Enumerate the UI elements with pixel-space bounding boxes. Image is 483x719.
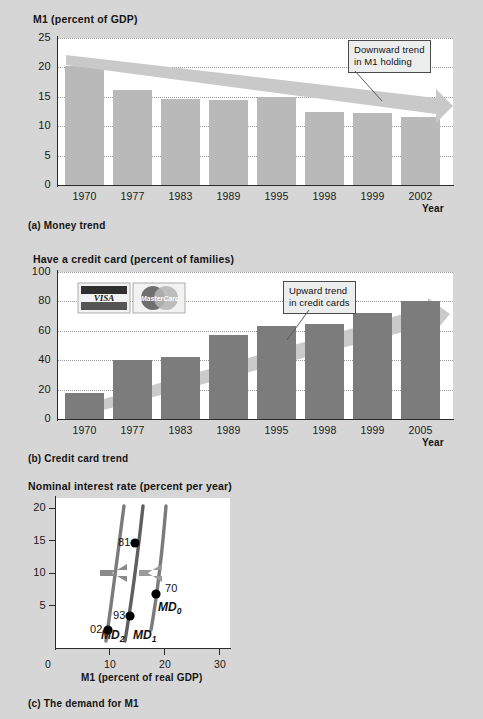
panel-a-ytick-25: 25 [20,31,51,43]
curve-label-md0-sub: 0 [177,606,182,616]
panel-b-xtick-1995: 1995 [252,424,301,436]
panel-b-caption: (b) Credit card trend [28,453,128,464]
bar-1989 [209,335,248,419]
panel-c-ytick-15: 15 [14,534,46,546]
panel-c-x-axis-name: M1 (percent of real GDP) [81,672,203,683]
curve-label-md0: MD0 [158,600,181,616]
panel-a-xtick-1970: 1970 [60,190,109,202]
panel-a-x-axis-name: Year [422,203,444,214]
point-70 [151,589,160,598]
panel-credit-card-trend: Have a credit card (percent of families) [0,240,483,470]
curve-label-md1: MD1 [133,628,156,644]
panel-b-xtick-1989: 1989 [204,424,253,436]
panel-c-origin-label: 0 [41,658,55,670]
panel-a-title: M1 (percent of GDP) [33,13,138,25]
panel-a-xtick-1999: 1999 [348,190,397,202]
panel-b-callout-leader [275,308,325,344]
panel-a-ytick-5: 5 [20,149,51,161]
panel-c-xtick-mark-30 [219,648,220,655]
panel-a-xtick-1995: 1995 [252,190,301,202]
panel-c-ytick-mark-20 [49,508,56,509]
panel-b-ytick-0: 0 [14,412,51,424]
visa-logo: VISA [78,283,130,313]
panel-demand-for-m1: Nominal interest rate (percent per year)… [0,470,483,719]
panel-a-xtick-1998: 1998 [300,190,349,202]
panel-b-y-axis [57,270,58,421]
point-label-81: 81 [118,536,131,548]
panel-a-xtick-1989: 1989 [204,190,253,202]
panel-c-ytick-20: 20 [14,501,46,513]
panel-a-callout-line1: Downward trend [354,44,425,55]
panel-b-xtick-1977: 1977 [108,424,157,436]
point-label-93: 93 [113,609,126,621]
panel-a-ytick-0: 0 [20,178,51,190]
panel-b-ytick-100: 100 [14,265,51,277]
panel-a-ytick-15: 15 [20,90,51,102]
panel-c-ytick-mark-15 [49,540,56,541]
panel-c-xtick-20: 20 [151,658,179,670]
panel-a-callout-leader [330,66,390,106]
panel-c-title: Nominal interest rate (percent per year) [28,480,232,492]
panel-b-ytick-20: 20 [14,383,51,395]
point-93 [125,611,134,620]
panel-c-caption: (c) The demand for M1 [28,698,139,709]
svg-text:MasterCard: MasterCard [141,295,180,302]
panel-b-xtick-1999: 1999 [348,424,397,436]
panel-b-callout-line2: in credit cards [289,297,350,308]
panel-b-x-axis-name: Year [422,437,444,448]
panel-b-xtick-2005: 2005 [396,424,445,436]
curve-label-md1-sub: 1 [152,634,157,644]
curve-label-md0-text: MD [158,600,177,614]
point-81 [130,538,139,547]
point-label-70: 70 [165,582,178,594]
bar-2005 [401,301,440,419]
panel-b-xtick-1970: 1970 [60,424,109,436]
panel-a-xtick-1977: 1977 [108,190,157,202]
panel-c-ytick-mark-5 [49,605,56,606]
panel-c-ytick-mark-10 [49,573,56,574]
panel-a-xtick-2002: 2002 [396,190,445,202]
panel-a-ytick-20: 20 [20,60,51,72]
mastercard-logo: MasterCard [133,283,185,313]
panel-c-xtick-mark-10 [109,648,110,655]
curve-label-md2-sub: 2 [120,634,125,644]
curve-label-md1-text: MD [133,628,152,642]
bar-1977 [113,360,152,419]
panel-c-ytick-5: 5 [14,599,46,611]
panel-c-xtick-10: 10 [96,658,124,670]
panel-a-xtick-1983: 1983 [156,190,205,202]
bar-1983 [161,357,200,419]
panel-c-x-axis [55,648,231,649]
figure-container: M1 (percent of GDP) 25 20 15 10 5 0 [0,0,483,719]
panel-a-x-axis [57,185,454,186]
panel-b-xtick-1998: 1998 [300,424,349,436]
bar-1970 [65,393,104,420]
bar-1999 [353,313,392,419]
panel-a-caption: (a) Money trend [28,220,105,231]
panel-b-ytick-80: 80 [14,294,51,306]
svg-text:VISA: VISA [94,293,115,303]
panel-a-ytick-10: 10 [20,119,51,131]
panel-a-y-axis [57,36,58,187]
panel-b-x-axis [57,419,454,420]
curve-label-md2-text: MD [101,628,120,642]
panel-money-trend: M1 (percent of GDP) 25 20 15 10 5 0 [0,0,483,240]
panel-b-title: Have a credit card (percent of families) [33,253,234,265]
panel-b-ytick-40: 40 [14,353,51,365]
panel-b-ytick-60: 60 [14,324,51,336]
panel-b-xtick-1983: 1983 [156,424,205,436]
panel-c-xtick-mark-20 [164,648,165,655]
panel-c-curves [55,498,230,648]
panel-b-callout-line1: Upward trend [289,285,347,296]
panel-c-xtick-30: 30 [206,658,234,670]
curve-label-md2: MD2 [101,628,124,644]
panel-c-ytick-10: 10 [14,566,46,578]
